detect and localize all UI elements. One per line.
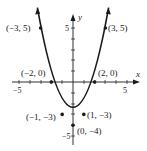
label-2-0: (2, 0) bbox=[98, 68, 118, 78]
x-axis-label: x bbox=[135, 69, 140, 79]
x-axis bbox=[12, 80, 140, 85]
point-neg1-neg3 bbox=[60, 113, 64, 117]
point-1-neg3 bbox=[82, 113, 86, 117]
point-neg3-5 bbox=[39, 26, 43, 30]
parabola-chart: (−3, 5) (3, 5) (−2, 0) (2, 0) (−1, −3) (… bbox=[0, 0, 147, 151]
curve-arrow-right-icon bbox=[106, 8, 111, 15]
x-tick-5: 5 bbox=[123, 86, 127, 95]
label-neg3-5: (−3, 5) bbox=[6, 23, 31, 33]
label-neg2-0: (−2, 0) bbox=[21, 68, 46, 78]
point-0-neg4 bbox=[71, 123, 75, 127]
point-neg2-0 bbox=[50, 80, 54, 84]
x-axis-arrow-icon bbox=[133, 80, 140, 85]
y-tick-neg5: −5 bbox=[62, 132, 71, 141]
label-3-5: (3, 5) bbox=[108, 23, 128, 33]
point-3-5 bbox=[104, 26, 108, 30]
point-2-0 bbox=[93, 80, 97, 84]
y-axis-arrow-icon bbox=[71, 14, 76, 21]
curve-arrow-left-icon bbox=[35, 8, 40, 15]
label-neg1-neg3: (−1, −3) bbox=[26, 112, 56, 122]
y-tick-5: 5 bbox=[65, 24, 69, 33]
label-1-neg3: (1, −3) bbox=[87, 110, 112, 120]
label-0-neg4: (0, −4) bbox=[77, 126, 102, 136]
y-axis-label: y bbox=[77, 12, 82, 22]
x-tick-neg5: −5 bbox=[13, 86, 22, 95]
